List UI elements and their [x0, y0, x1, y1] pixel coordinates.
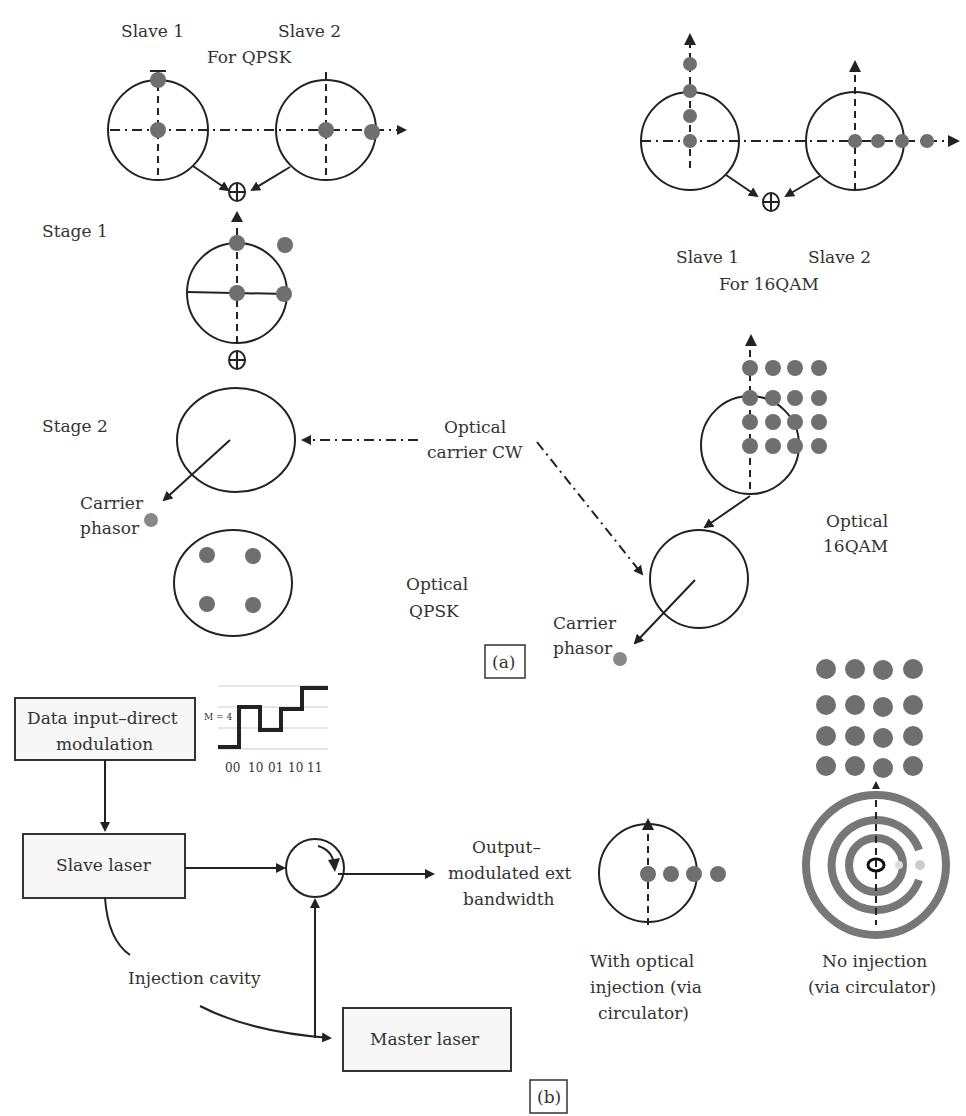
stage1-constellation	[187, 211, 293, 345]
svg-text:modulated ext: modulated ext	[448, 863, 572, 883]
carrier-phasor-right-label: Carrier phasor	[553, 613, 617, 658]
svg-text:No injection: No injection	[822, 951, 927, 971]
svg-text:Master laser: Master laser	[370, 1029, 480, 1049]
qam-16-grid	[742, 360, 827, 454]
constellation-point	[150, 72, 166, 88]
constellation-point	[229, 235, 245, 251]
svg-text:Optical: Optical	[406, 574, 468, 594]
constellation-point	[920, 134, 934, 148]
stage2-carrier	[144, 388, 295, 527]
constellation-point	[683, 109, 697, 123]
constellation-point	[276, 286, 292, 302]
svg-text:bandwidth: bandwidth	[463, 889, 555, 909]
svg-text:10: 10	[288, 761, 303, 775]
constellation-point	[683, 57, 697, 71]
carrier-phasor-point	[144, 513, 158, 527]
optical-16qam-label: Optical 16QAM	[823, 511, 888, 556]
slave-laser-box: Slave laser	[23, 834, 185, 898]
stage2-label: Stage 2	[42, 416, 108, 436]
constellation-point	[683, 134, 697, 148]
constellation-point	[686, 866, 702, 882]
svg-text:01: 01	[268, 761, 283, 775]
svg-text:injection (via: injection (via	[590, 977, 702, 997]
svg-text:16QAM: 16QAM	[823, 536, 888, 556]
svg-text:carrier CW: carrier CW	[427, 442, 523, 462]
optical-qpsk-constellation	[174, 530, 292, 636]
qam-stage1-constellation	[701, 334, 827, 495]
svg-text:Slave 1: Slave 1	[676, 247, 739, 267]
diagram-canvas: Slave 1 Slave 2 For QPSK Stage 1	[0, 0, 966, 1116]
with-injection-label: With optical injection (via circulator)	[590, 951, 702, 1023]
qam-slave2-constellation	[806, 60, 934, 190]
constellation-point	[277, 237, 293, 253]
qpsk-slave1-constellation	[108, 71, 405, 180]
constellation-point	[663, 866, 679, 882]
panel-a-label: (a)	[485, 645, 525, 678]
carrier-phasor-left-label: Carrier phasor	[80, 493, 144, 538]
constellation-point	[640, 866, 656, 882]
constellation-point	[199, 596, 215, 612]
svg-text:Optical: Optical	[826, 511, 888, 531]
output-label: Output– modulated ext bandwidth	[448, 837, 572, 909]
constellation-point	[199, 547, 215, 563]
svg-text:Carrier: Carrier	[553, 613, 617, 633]
svg-text:10: 10	[248, 761, 263, 775]
svg-text:Slave 2: Slave 2	[808, 247, 871, 267]
constellation-point	[229, 285, 245, 301]
with-injection-constellation	[599, 818, 726, 925]
no-injection-rings	[806, 781, 946, 935]
adder-icon	[763, 193, 779, 211]
circulator-icon	[286, 839, 344, 897]
svg-text:00: 00	[225, 761, 240, 775]
svg-text:(b): (b)	[537, 1087, 561, 1107]
data-input-box: Data input–direct modulation	[15, 698, 195, 760]
svg-text:modulation: modulation	[56, 734, 153, 754]
svg-text:Optical: Optical	[444, 417, 506, 437]
svg-text:(via circulator): (via circulator)	[808, 977, 936, 997]
stage1-label: Stage 1	[42, 221, 108, 241]
no-injection-16qam-grid	[816, 659, 923, 778]
svg-text:Output–: Output–	[472, 837, 541, 857]
qam-slave1-constellation	[641, 33, 960, 190]
carrier-phasor-point	[613, 652, 627, 666]
no-injection-label: No injection (via circulator)	[808, 951, 936, 997]
svg-text:phasor: phasor	[553, 638, 613, 658]
constellation-point	[895, 134, 909, 148]
qam-header: Slave 1 Slave 2 For 16QAM	[676, 247, 871, 294]
svg-text:(a): (a)	[492, 652, 515, 672]
qam-carrier-stage	[613, 530, 748, 666]
injection-cavity-label: Injection cavity	[128, 968, 261, 988]
constellation-point	[318, 122, 334, 138]
qpsk-slave1-label: Slave 1	[121, 21, 184, 41]
qpsk-slave2-constellation	[276, 72, 380, 180]
constellation-point	[683, 84, 697, 98]
adder-icon	[229, 351, 245, 369]
svg-text:With optical: With optical	[590, 951, 694, 971]
panel-b-label: (b)	[530, 1080, 567, 1113]
svg-text:Slave laser: Slave laser	[56, 855, 152, 875]
optical-qpsk-label: Optical QPSK	[406, 574, 468, 621]
svg-text:11: 11	[307, 761, 322, 775]
waveform-level-label: M = 4	[204, 712, 232, 722]
constellation-point	[710, 866, 726, 882]
adder-icon	[229, 183, 245, 201]
svg-text:QPSK: QPSK	[409, 601, 459, 621]
optical-carrier-label: Optical carrier CW	[427, 417, 523, 462]
svg-text:Carrier: Carrier	[80, 493, 144, 513]
constellation-point	[848, 134, 862, 148]
m4-waveform: M = 4 00 10 01 10 11	[204, 686, 328, 775]
svg-text:For 16QAM: For 16QAM	[719, 274, 819, 294]
master-laser-box: Master laser	[343, 1008, 511, 1071]
qpsk-for-label: For QPSK	[207, 47, 292, 67]
svg-text:circulator): circulator)	[598, 1003, 689, 1023]
svg-text:phasor: phasor	[80, 518, 140, 538]
svg-text:Data input–direct: Data input–direct	[27, 708, 178, 728]
qpsk-slave2-label: Slave 2	[278, 21, 341, 41]
constellation-point	[871, 134, 885, 148]
constellation-point	[150, 122, 166, 138]
constellation-point	[364, 124, 380, 140]
constellation-point	[245, 597, 261, 613]
constellation-point	[245, 548, 261, 564]
qpsk-header: Slave 1 Slave 2 For QPSK	[121, 21, 341, 67]
